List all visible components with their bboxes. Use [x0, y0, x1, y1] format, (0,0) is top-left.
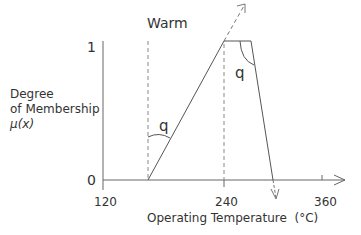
- y-tick-1: 1: [87, 39, 96, 55]
- x-tick-240: 240: [215, 195, 238, 209]
- angle-label-right: q: [235, 64, 245, 82]
- angle-arc-left: [148, 135, 170, 138]
- x-tick-360: 360: [314, 195, 337, 209]
- y-axis-title-line1: Degree: [10, 87, 54, 101]
- y-axis-title-line3: μ(x): [9, 117, 34, 131]
- y-tick-0: 0: [87, 172, 96, 188]
- falling-edge: [251, 41, 273, 180]
- warm-label: Warm: [147, 15, 188, 31]
- membership-function-diagram: Warm q q 1 0 Degree of Membership μ(x) 1…: [0, 0, 361, 235]
- x-tick-120: 120: [94, 195, 117, 209]
- rising-extension-dashed: [224, 4, 245, 41]
- x-axis-title: Operating Temperature (°C): [147, 211, 318, 225]
- rising-edge: [148, 41, 224, 180]
- angle-label-left: q: [159, 117, 169, 135]
- rising-extension-arrow-icon: [237, 4, 245, 13]
- y-axis-title-line2: of Membership: [10, 102, 100, 116]
